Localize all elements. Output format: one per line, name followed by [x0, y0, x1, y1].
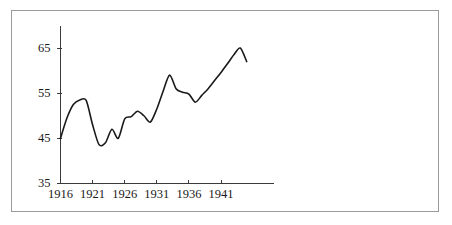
y-tick-label-45: 45: [25, 132, 51, 145]
x-tick-label-1936: 1936: [172, 188, 206, 201]
x-tick-label-1921: 1921: [76, 188, 110, 201]
chart-frame: [11, 10, 439, 212]
x-tick-label-1941: 1941: [204, 188, 238, 201]
y-tick-label-55: 55: [25, 87, 51, 100]
x-tick-label-1931: 1931: [140, 188, 174, 201]
figure-root: 35455565 191619211926193119361941: [0, 0, 452, 225]
x-tick-label-1926: 1926: [108, 188, 142, 201]
y-tick-label-65: 65: [25, 42, 51, 55]
x-tick-label-1916: 1916: [44, 188, 78, 201]
